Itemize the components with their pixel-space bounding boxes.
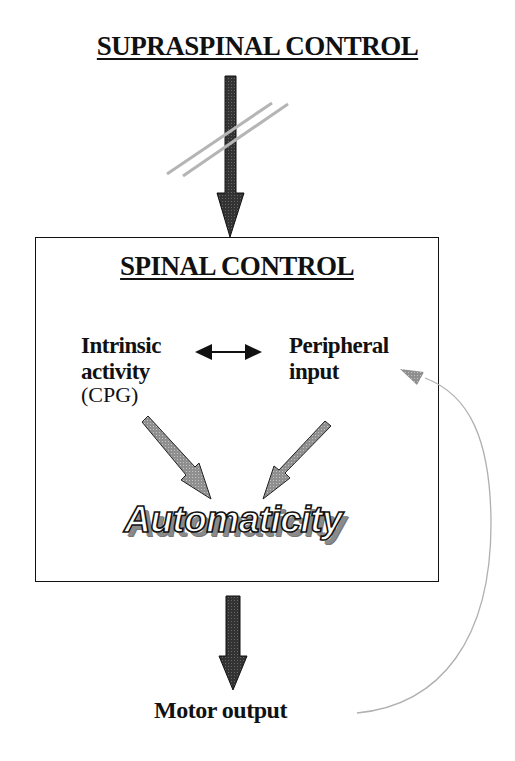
supraspinal-down-arrow <box>217 76 244 237</box>
arrowhead-left <box>195 344 212 360</box>
peripheral-to-automaticity-arrow <box>263 421 331 499</box>
feedback-loop-arrow <box>357 369 491 713</box>
motor-output-down-arrow <box>219 596 247 690</box>
connectors-layer <box>0 0 515 761</box>
bidirectional-arrow <box>195 344 262 360</box>
intrinsic-to-automaticity-arrow <box>142 416 211 499</box>
feedback-curve <box>357 378 491 713</box>
arrowhead-right <box>245 344 262 360</box>
feedback-arrowhead <box>400 369 424 385</box>
supraspinal-arrow-shaft <box>217 76 244 237</box>
slash-line-1 <box>167 103 272 174</box>
